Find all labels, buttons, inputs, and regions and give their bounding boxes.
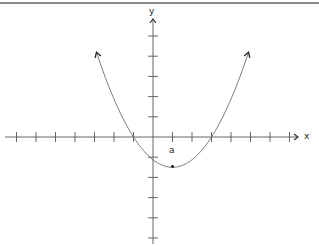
x-axis-label: x <box>304 132 309 141</box>
vertex-label: a <box>169 146 175 155</box>
parabola-graph <box>0 0 319 246</box>
vertex-point <box>171 165 174 168</box>
y-axis <box>148 19 158 244</box>
y-axis-label: y <box>149 7 154 16</box>
x-axis <box>5 132 298 142</box>
